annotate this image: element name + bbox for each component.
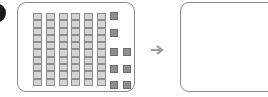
answer-box[interactable] [180,2,268,92]
rod-unit [46,49,55,56]
ones-cube [110,12,118,20]
tens-rod [59,13,68,86]
rod-unit [84,49,93,56]
rod-unit [33,35,42,42]
ones-cube [110,65,118,73]
ones-cube [110,29,118,37]
rod-unit [59,57,68,64]
rod-unit [97,28,106,35]
rod-unit [46,13,55,20]
rod-unit [59,64,68,71]
rod-unit [71,13,80,20]
rod-unit [84,42,93,49]
rod-unit [84,28,93,35]
rod-unit [46,28,55,35]
rod-unit [46,57,55,64]
rod-unit [46,64,55,71]
rod-unit [33,57,42,64]
rod-unit [84,20,93,27]
rod-unit [84,13,93,20]
tens-rod [97,13,106,86]
rod-unit [59,42,68,49]
rod-unit [71,42,80,49]
rod-unit [84,64,93,71]
rod-unit [59,71,68,78]
rod-unit [33,13,42,20]
rod-unit [97,57,106,64]
rod-unit [59,79,68,86]
question-number-badge [0,4,6,22]
base-ten-blocks-panel [17,2,135,92]
rod-unit [59,20,68,27]
rod-unit [97,79,106,86]
rod-unit [71,64,80,71]
ones-cube [110,48,118,56]
rod-unit [97,42,106,49]
tens-rod [84,13,93,86]
rod-unit [46,35,55,42]
tens-rod [33,13,42,86]
rod-unit [33,20,42,27]
rod-unit [59,35,68,42]
rod-unit [84,71,93,78]
rod-unit [46,71,55,78]
tens-rod [46,13,55,86]
rod-unit [97,64,106,71]
rod-unit [71,79,80,86]
rod-unit [97,49,106,56]
rod-unit [71,35,80,42]
rod-unit [97,13,106,20]
ones-cube [123,81,131,89]
rod-unit [84,57,93,64]
rod-unit [33,28,42,35]
rod-unit [97,35,106,42]
rod-unit [71,57,80,64]
rod-unit [71,49,80,56]
rod-unit [84,79,93,86]
rod-unit [33,42,42,49]
ones-cube [110,81,118,89]
rod-unit [33,64,42,71]
rod-unit [59,28,68,35]
rod-unit [59,13,68,20]
arrow-right-icon [150,45,164,55]
rod-unit [97,71,106,78]
rod-unit [71,28,80,35]
tens-rod [71,13,80,86]
rod-unit [71,20,80,27]
ones-cube [123,65,131,73]
rod-unit [46,20,55,27]
rod-unit [97,20,106,27]
rod-unit [33,71,42,78]
ones-cube [123,48,131,56]
rod-unit [71,71,80,78]
rod-unit [33,79,42,86]
rod-unit [84,35,93,42]
rod-unit [46,79,55,86]
rod-unit [46,42,55,49]
rod-unit [59,49,68,56]
rod-unit [33,49,42,56]
